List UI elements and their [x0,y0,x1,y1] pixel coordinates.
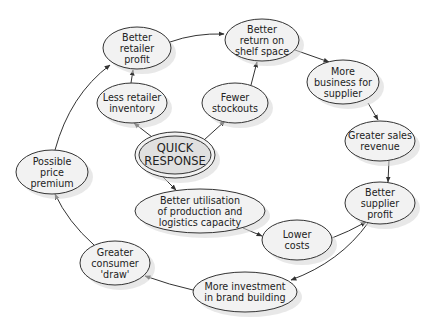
node-lower-costs: Lowercosts [262,220,337,265]
node-label-line: stockouts [212,103,258,114]
node-better-retailer-profit: Betterretailerprofit [103,27,176,74]
node-label-line: Fewer [221,92,250,103]
node-label-line: profit [124,54,150,65]
node-label-line: supplier [324,88,362,99]
node-greater-sales-revenue: Greater salesrevenue [345,121,420,166]
node-label-line: price [40,167,64,178]
node-less-retailer-inventory: Less retailerinventory [97,83,172,128]
node-label-line: of production and [158,206,243,217]
node-label-line: Greater [97,247,134,258]
node-label-line: in brand building [204,292,285,303]
node-label-line: shelf space [235,46,289,57]
node-label-line: RESPONSE [144,154,206,168]
node-quick-response: QUICKRESPONSE [135,132,220,183]
node-label-line: consumer [91,258,139,269]
node-label-line: supplier [361,198,399,209]
node-label-line: 'draw' [100,269,129,280]
arrow-lower-costs-to-better-supplier-profit [332,222,366,238]
quick-response-diagram: QUICKRESPONSELess retailerinventoryFewer… [0,0,441,326]
node-label-line: More [331,66,355,77]
node-fewer-stockouts: Fewerstockouts [202,83,273,128]
node-better-supplier-profit: Bettersupplierprofit [345,182,420,229]
node-label-line: costs [285,240,310,251]
node-label-line: QUICK [157,141,194,155]
node-label-line: business for [314,77,372,88]
arrow-more-business-for-supplier-to-greater-sales-revenue [368,103,378,120]
node-greater-consumer-draw: Greaterconsumer'draw' [80,241,155,290]
node-label-line: inventory [109,103,155,114]
node-label-line: Better [247,24,277,35]
node-label-line: profit [367,209,393,220]
node-label-line: return on [240,35,284,46]
node-more-business-for-supplier: Morebusiness forsupplier [307,60,384,109]
node-better-utilisation: Better utilisationof production andlogis… [135,189,270,238]
arrow-fewer-stockouts-to-better-return-on-shelf-space [251,62,257,85]
node-label-line: logistics capacity [159,217,242,228]
node-label-line: Better utilisation [160,195,240,206]
arrow-better-retailer-profit-to-better-return-on-shelf-space [170,34,224,42]
node-label-line: Greater sales [348,130,412,141]
node-label-line: Better [122,32,152,43]
node-label-line: Possible [33,156,72,167]
node-label-line: premium [30,178,73,189]
node-label-line: Less retailer [103,92,162,103]
node-better-return-on-shelf-space: Betterreturn onshelf space [225,19,304,66]
node-possible-price-premium: Possiblepricepremium [16,150,93,199]
arrow-more-investment-brand-building-to-greater-consumer-draw [145,276,193,290]
nodes-layer: QUICKRESPONSELess retailerinventoryFewer… [16,19,420,317]
node-label-line: Lower [283,229,312,240]
node-label-line: revenue [360,141,399,152]
node-label-line: More investment [204,281,285,292]
arrow-greater-consumer-draw-to-possible-price-premium [55,194,94,245]
node-label-line: retailer [120,43,155,54]
node-more-investment-brand-building: More investmentin brand building [193,272,302,317]
node-label-line: Better [365,187,395,198]
